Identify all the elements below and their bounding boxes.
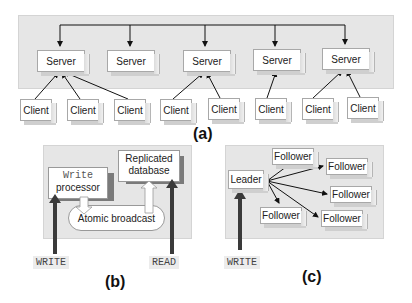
follower-label: Follower	[262, 210, 300, 221]
follower-box: Follower	[272, 148, 314, 165]
follower-box: Follower	[330, 186, 372, 203]
leader-label: Leader	[230, 174, 261, 185]
follower-label: Follower	[274, 151, 312, 162]
follower-box: Follower	[321, 210, 363, 227]
leader-box: Leader	[228, 170, 264, 189]
follower-label: Follower	[323, 213, 361, 224]
write-label-c: WRITE	[224, 256, 260, 269]
follower-box: Follower	[326, 158, 368, 175]
follower-label: Follower	[328, 161, 366, 172]
caption-c: (c)	[302, 268, 322, 286]
follower-label: Follower	[332, 189, 370, 200]
panel-c-arrows	[0, 0, 412, 303]
follower-box: Follower	[260, 207, 302, 224]
